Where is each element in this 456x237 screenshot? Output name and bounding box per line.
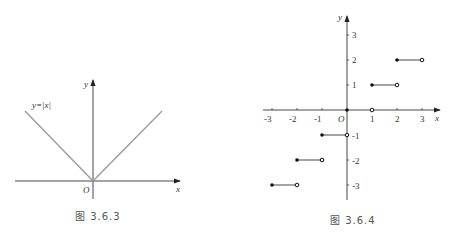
y-tick-neg3: -3 [352, 181, 360, 191]
y-axis-label: y [337, 12, 342, 22]
y-axis-label: y [83, 79, 88, 89]
y-tick-2: 2 [352, 55, 357, 65]
y-tick-neg1: -1 [352, 131, 360, 141]
figure-step-function: -3 -2 -1 1 2 3 3 2 1 -1 -2 -3 x y O [263, 12, 440, 200]
x-tick-neg2: -2 [289, 114, 297, 124]
abs-value-curve [25, 111, 162, 181]
function-label: y=|x| [31, 100, 51, 110]
x-tick-2: 2 [395, 114, 400, 124]
caption-fig2: 图 3.6.4 [330, 212, 376, 227]
x-axis-label: x [434, 113, 439, 123]
y-tick-3: 3 [352, 30, 357, 40]
x-tick-neg1: -1 [314, 114, 322, 124]
y-tick-neg2: -2 [352, 156, 360, 166]
caption-fig1: 图 3.6.3 [75, 208, 121, 223]
x-tick-neg3: -3 [264, 114, 272, 124]
origin-label: O [83, 185, 90, 195]
x-axis-label: x [175, 184, 180, 194]
figure-abs-value: x y O y=|x| [15, 79, 180, 199]
y-tick-1: 1 [352, 80, 357, 90]
x-tick-3: 3 [420, 114, 425, 124]
origin-label: O [338, 114, 345, 124]
x-tick-1: 1 [370, 114, 375, 124]
figure-canvas: x y O y=|x| -3 -2 -1 1 2 3 [0, 0, 456, 237]
